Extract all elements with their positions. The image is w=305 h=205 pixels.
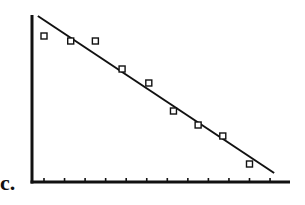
data-point-marker (41, 33, 47, 39)
data-point-marker (146, 80, 152, 86)
data-points (41, 33, 253, 167)
data-point-marker (68, 38, 74, 44)
data-point-marker (247, 161, 253, 167)
data-point-marker (170, 108, 176, 114)
data-point-marker (92, 38, 98, 44)
panel-label: c. (0, 172, 15, 194)
data-point-marker (195, 122, 201, 128)
scatter-chart (0, 0, 305, 205)
data-point-marker (119, 66, 125, 72)
data-point-marker (220, 133, 226, 139)
